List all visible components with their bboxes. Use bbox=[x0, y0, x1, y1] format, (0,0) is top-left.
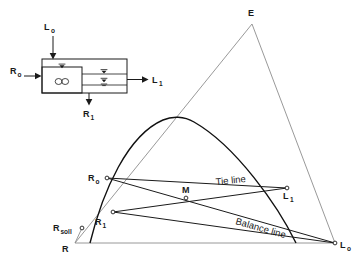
point-label-rsoll: R soll bbox=[53, 223, 72, 235]
figure-root: L o R o L 1 R 1 bbox=[0, 0, 358, 267]
point-label-m: M bbox=[182, 185, 190, 195]
inlet-arrow-l0 bbox=[50, 36, 57, 59]
vertex-label-l0-sub: o bbox=[347, 245, 351, 252]
triangle-side-right bbox=[252, 24, 335, 243]
operating-line-r0-l0 bbox=[107, 178, 335, 243]
outlet-arrow-r1 bbox=[86, 93, 93, 105]
flowsheet-label-r0: R o bbox=[10, 66, 22, 78]
operating-line-r1-l1 bbox=[113, 188, 287, 212]
flowsheet-group: L o R o L 1 R 1 bbox=[10, 22, 163, 121]
triangle-side-left bbox=[75, 24, 252, 243]
point-label-r1-sub: 1 bbox=[103, 222, 107, 229]
point-marker-l0 bbox=[333, 241, 337, 245]
point-label-l1-sub: 1 bbox=[290, 196, 294, 203]
outlet-arrow-l1 bbox=[127, 76, 149, 83]
flowsheet-label-l0-sub: o bbox=[51, 27, 55, 34]
tie-line-label: Tie line bbox=[215, 173, 246, 187]
flowsheet-label-l0: L o bbox=[44, 22, 55, 34]
interface-icon-settler-lower bbox=[101, 78, 108, 85]
point-label-l1: L 1 bbox=[283, 191, 294, 203]
diagram-canvas: L o R o L 1 R 1 bbox=[0, 0, 358, 267]
point-marker-l1 bbox=[285, 186, 289, 190]
point-label-r1: R 1 bbox=[95, 217, 107, 229]
interface-icon-top bbox=[59, 64, 66, 68]
flowsheet-label-r0-sub: o bbox=[18, 71, 22, 78]
point-label-l1-text: L bbox=[283, 191, 289, 201]
vertex-label-l0-text: L bbox=[340, 240, 346, 250]
point-label-rsoll-text: R bbox=[53, 223, 60, 233]
point-label-r0-sub: o bbox=[96, 178, 100, 185]
point-marker-m bbox=[184, 196, 188, 200]
inlet-arrow-r0 bbox=[24, 73, 42, 80]
stirrer-icon bbox=[55, 79, 68, 85]
vertex-label-l0: L o bbox=[340, 240, 351, 252]
tie-line bbox=[107, 178, 287, 188]
balance-line-label: Balance line bbox=[234, 215, 287, 240]
ternary-diagram-group: E R L o R o R 1 R soll bbox=[53, 8, 351, 254]
point-label-r0: R o bbox=[88, 173, 100, 185]
balance-line bbox=[113, 212, 335, 243]
flowsheet-label-r1: R 1 bbox=[83, 109, 95, 121]
flowsheet-label-r0-text: R bbox=[10, 66, 17, 76]
point-label-rsoll-sub: soll bbox=[61, 228, 72, 235]
flowsheet-label-r1-sub: 1 bbox=[91, 114, 95, 121]
point-marker-r0 bbox=[105, 176, 109, 180]
vertex-label-r: R bbox=[62, 244, 69, 254]
flowsheet-label-l1-text: L bbox=[152, 75, 158, 85]
flowsheet-label-l1-sub: 1 bbox=[159, 80, 163, 87]
vessel-outline bbox=[42, 59, 127, 93]
flowsheet-label-l1: L 1 bbox=[152, 75, 163, 87]
vertex-label-e: E bbox=[248, 8, 254, 18]
flowsheet-label-l0-text: L bbox=[44, 22, 50, 32]
point-label-r0-text: R bbox=[88, 173, 95, 183]
point-label-r1-text: R bbox=[95, 217, 102, 227]
point-marker-r1 bbox=[111, 210, 115, 214]
interface-icon-settler-upper bbox=[101, 70, 108, 74]
point-marker-rsoll bbox=[80, 226, 84, 230]
flowsheet-label-r1-text: R bbox=[83, 109, 90, 119]
